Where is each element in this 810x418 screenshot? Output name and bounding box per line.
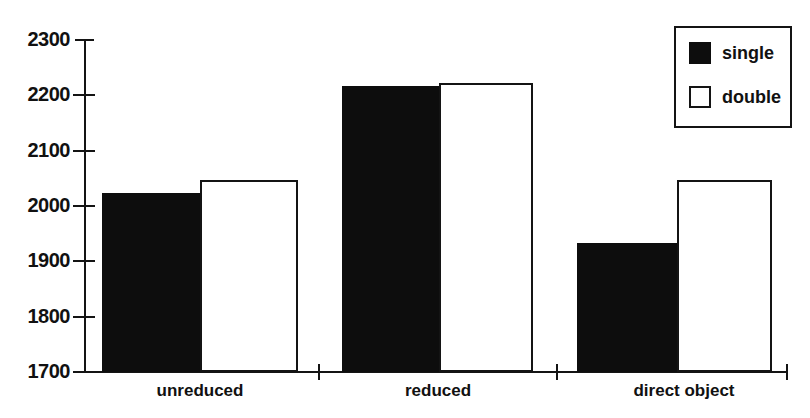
bar-chart: 2300 2200 2100 2000 1900 1800 1700: [0, 0, 810, 418]
x-axis-group-label-reduced: reduced: [358, 381, 518, 401]
y-axis-label-2000: 2000: [2, 195, 70, 215]
y-axis-tick: [73, 150, 95, 152]
legend-swatch-single-icon: [689, 42, 711, 64]
y-axis-tick: [73, 260, 95, 262]
y-axis-label-1700: 1700: [2, 361, 70, 381]
y-axis-label-2200: 2200: [2, 84, 70, 104]
plot-area: 2300 2200 2100 2000 1900 1800 1700: [0, 0, 810, 418]
y-axis-label-1800: 1800: [2, 306, 70, 326]
legend-item-single: single: [689, 42, 774, 64]
x-axis-tick: [556, 364, 558, 380]
y-axis-label-2300: 2300: [2, 29, 70, 49]
x-axis-group-label-unreduced: unreduced: [120, 381, 280, 401]
legend-swatch-double-icon: [689, 86, 711, 108]
bar-unreduced-single: [102, 193, 200, 372]
bar-reduced-single: [342, 86, 439, 372]
bar-unreduced-double: [200, 180, 298, 372]
legend-label-double: double: [722, 88, 781, 106]
y-axis-tick: [75, 39, 94, 41]
y-axis-tick: [73, 205, 95, 207]
x-axis-group-label-direct-object: direct object: [594, 381, 774, 401]
bar-direct-object-double: [677, 180, 772, 372]
x-axis-tick: [318, 364, 320, 380]
legend-item-double: double: [689, 86, 781, 108]
y-axis-label-2100: 2100: [2, 140, 70, 160]
y-axis-tick: [73, 316, 95, 318]
bar-reduced-double: [439, 83, 533, 372]
y-axis-tick: [73, 94, 95, 96]
bar-direct-object-single: [577, 243, 677, 372]
x-axis-tick: [786, 364, 788, 380]
legend-label-single: single: [722, 44, 774, 62]
legend: single double: [674, 26, 792, 128]
y-axis-label-1900: 1900: [2, 250, 70, 270]
